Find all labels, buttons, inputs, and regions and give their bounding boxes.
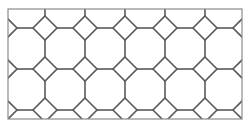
square-tile — [233, 57, 246, 81]
square-tile — [73, 57, 97, 81]
square-tile — [113, 57, 137, 81]
frame-border — [8, 9, 242, 119]
square-tile — [33, 57, 57, 81]
square-tile — [193, 16, 217, 40]
tile-lines — [0, 0, 246, 127]
square-tile — [113, 16, 137, 40]
square-tile — [193, 57, 217, 81]
square-tile — [153, 16, 177, 40]
square-tile — [33, 16, 57, 40]
square-tile — [73, 16, 97, 40]
octagon-tiling-figure — [0, 0, 246, 127]
square-tile — [233, 16, 246, 40]
square-tile — [153, 57, 177, 81]
